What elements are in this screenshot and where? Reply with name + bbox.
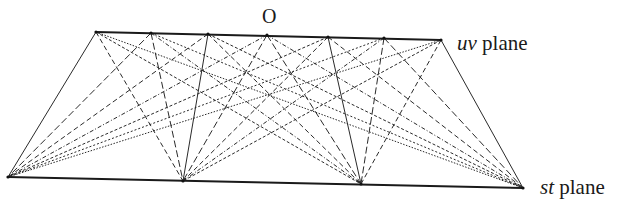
- ray-line: [8, 33, 151, 177]
- ray-line: [96, 32, 361, 184]
- sample-points: [6, 30, 524, 189]
- st-plane-label: st plane: [540, 175, 605, 200]
- origin-label: O: [262, 5, 276, 28]
- ray-line: [151, 33, 523, 188]
- ray-line: [183, 38, 384, 181]
- uv-plane-label-text: plane: [477, 31, 528, 55]
- sample-point: [206, 32, 209, 35]
- sample-point: [94, 30, 97, 33]
- st-plane-label-text: plane: [554, 175, 605, 199]
- sample-point: [265, 33, 268, 36]
- ray-line: [8, 35, 267, 177]
- ray-line: [8, 37, 328, 177]
- light-field-diagram: O uv plane st plane: [0, 0, 625, 204]
- ray-line: [384, 38, 523, 188]
- sample-point: [439, 38, 442, 41]
- ray-line: [8, 32, 96, 177]
- rays-canvas: [0, 0, 625, 204]
- uv-plane-label-italic: uv: [457, 31, 477, 55]
- ray-line: [441, 40, 523, 188]
- ray-line: [267, 35, 523, 188]
- sample-point: [359, 182, 362, 185]
- sample-point: [326, 35, 329, 38]
- ray-line: [151, 33, 361, 184]
- sample-point: [521, 186, 524, 189]
- sample-point: [382, 36, 385, 39]
- st-plane-label-italic: st: [540, 175, 554, 199]
- sample-point: [181, 179, 184, 182]
- ray-line: [361, 38, 384, 184]
- ray-line: [208, 34, 523, 188]
- st-plane-line: [8, 177, 523, 188]
- sample-point: [6, 175, 9, 178]
- ray-lines: [8, 32, 523, 188]
- ray-line: [267, 35, 361, 184]
- sample-point: [149, 31, 152, 34]
- uv-plane-label: uv plane: [457, 31, 528, 56]
